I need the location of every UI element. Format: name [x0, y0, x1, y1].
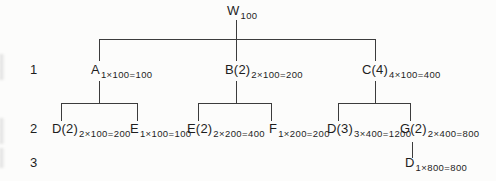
tree-diagram: W 100 1 2 3 A 1×100=100 B(2) 2×100=200 C…: [0, 0, 496, 181]
node-e: E 1×100=100: [130, 122, 192, 139]
node-d2-label: D(2): [52, 122, 78, 136]
edge-b-stem: [236, 81, 237, 103]
edge-w-stem: [236, 20, 237, 39]
edge-c-bar: [338, 103, 411, 104]
edge-drop-f: [271, 103, 272, 121]
edge-c-stem: [375, 81, 376, 103]
node-g2-subscript: 2×400=800: [428, 129, 480, 139]
node-d3-label: D(3): [327, 122, 353, 136]
level-label-2: 2: [30, 122, 37, 136]
node-d: D 1×800=800: [405, 156, 467, 173]
edge-drop-d2: [61, 103, 62, 121]
edge-level1-bar: [99, 39, 376, 40]
scan-artifact: [0, 118, 5, 144]
node-w-subscript: 100: [240, 11, 257, 21]
node-e2-label: E(2): [187, 122, 212, 136]
node-d2: D(2) 2×100=200: [52, 122, 131, 139]
node-a-subscript: 1×100=100: [101, 70, 153, 80]
edge-drop-e: [137, 103, 138, 121]
scan-artifact: [0, 148, 5, 168]
node-c4-subscript: 4×100=400: [389, 70, 441, 80]
node-b2-subscript: 2×100=200: [251, 70, 303, 80]
edge-drop-g2: [410, 103, 411, 121]
node-d2-subscript: 2×100=200: [79, 129, 131, 139]
edge-drop-b: [236, 39, 237, 61]
node-e-subscript: 1×100=100: [140, 129, 192, 139]
node-c4-label: C(4): [362, 63, 388, 77]
node-e2: E(2) 2×200=400: [187, 122, 265, 139]
node-g2-label: G(2): [400, 122, 427, 136]
node-b2-label: B(2): [225, 63, 250, 77]
node-d3: D(3) 3×400=1200: [327, 122, 411, 139]
edge-a-bar: [61, 103, 138, 104]
level-label-1: 1: [30, 63, 37, 77]
edge-drop-a: [99, 39, 100, 61]
scan-artifact: [0, 54, 5, 80]
node-c4: C(4) 4×100=400: [362, 63, 441, 80]
node-g2: G(2) 2×400=800: [400, 122, 480, 139]
edge-drop-c: [375, 39, 376, 61]
node-e-label: E: [130, 122, 139, 136]
node-e2-subscript: 2×200=400: [213, 129, 265, 139]
edge-drop-e2: [198, 103, 199, 121]
node-a: A 1×100=100: [91, 63, 153, 80]
node-f-subscript: 1×200=200: [278, 129, 330, 139]
node-d-subscript: 1×800=800: [416, 163, 468, 173]
node-d-label: D: [405, 156, 415, 170]
edge-drop-d3: [338, 103, 339, 121]
node-b2: B(2) 2×100=200: [225, 63, 303, 80]
edge-b-bar: [198, 103, 272, 104]
node-a-label: A: [91, 63, 100, 77]
node-f: F 1×200=200: [269, 122, 330, 139]
edge-a-stem: [99, 81, 100, 103]
node-w-label: W: [227, 4, 239, 18]
node-w: W 100: [227, 4, 258, 21]
node-f-label: F: [269, 122, 277, 136]
level-label-3: 3: [30, 156, 37, 170]
